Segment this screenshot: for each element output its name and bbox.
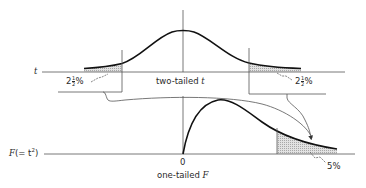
two-tailed-t-caption: two-tailed t	[156, 77, 205, 86]
right-tail-whole: 2	[295, 76, 300, 86]
caption-text: one-tailed	[157, 170, 202, 180]
left-tail-unit: %	[76, 76, 84, 86]
right-tail-label: 212%	[295, 76, 313, 87]
caption-var: t	[201, 76, 204, 86]
caption-text: two-tailed	[156, 76, 201, 86]
left-leader	[91, 74, 108, 82]
f-origin-label: 0	[180, 158, 185, 167]
left-brace-connector	[103, 92, 312, 138]
one-tailed-f-caption: one-tailed F	[157, 171, 208, 180]
left-tail-label: 212%	[66, 76, 84, 87]
f-tail-label: 5%	[327, 162, 341, 171]
right-leader	[277, 73, 292, 80]
f-panel	[44, 96, 355, 163]
connectors	[103, 92, 312, 138]
right-tail-unit: %	[305, 76, 313, 86]
left-tail-whole: 2	[66, 76, 71, 86]
f-close: )	[35, 148, 38, 158]
t-axis-label: t	[34, 67, 37, 76]
caption-var: F	[202, 170, 208, 180]
t-density-curve	[84, 31, 301, 69]
f-eq: (= t	[15, 148, 31, 158]
f-axis-label: F(= t2)	[9, 148, 38, 157]
